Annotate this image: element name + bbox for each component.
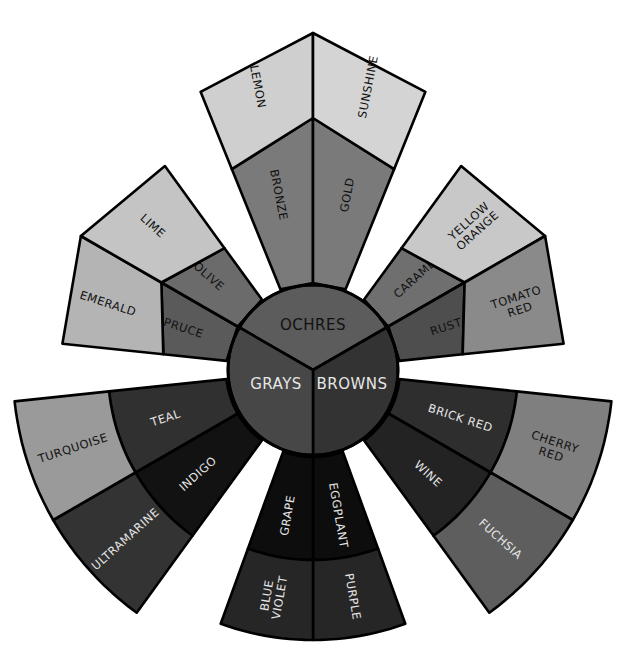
- wedge-grays: SPRUCEOLIVEEMERALDLIME: [62, 166, 262, 361]
- wedge-purples: EGGPLANTGRAPEPURPLEBLUEVIOLET: [221, 452, 406, 640]
- hub-label-ochres: OCHRES: [280, 316, 346, 334]
- color-wheel: BRONZEGOLDLEMONSUNSHINECARAMELRUSTYELLOW…: [0, 0, 624, 671]
- hub-label-grays: GRAYS: [250, 375, 302, 393]
- hub-label-browns: BROWNS: [316, 375, 387, 393]
- wedge-ochres: BRONZEGOLDLEMONSUNSHINE: [201, 33, 426, 289]
- wedge-browns: BRICK REDWINECHERRYREDFUCHSIA: [364, 379, 611, 613]
- wedge-browns: CARAMELRUSTYELLOWORANGETOMATORED: [364, 166, 563, 361]
- hub-layer: OCHRESBROWNSGRAYS: [228, 285, 398, 455]
- wedge-grays: INDIGOTEALULTRAMARINETURQUOISE: [15, 379, 262, 613]
